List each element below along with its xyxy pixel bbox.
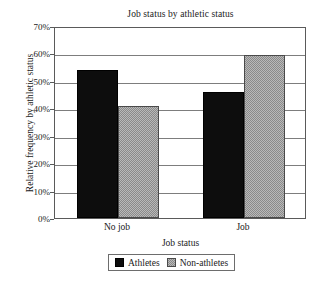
legend-item[interactable]: Athletes <box>115 258 160 268</box>
y-tick-label: 40% <box>0 105 50 114</box>
y-tick-label: 50% <box>0 77 50 86</box>
legend-item[interactable]: Non-athletes <box>167 258 229 268</box>
bar-athletes-job <box>203 92 244 218</box>
y-tick-mark <box>50 219 54 220</box>
x-axis-label: Job status <box>54 238 307 248</box>
y-tick-label: 0% <box>0 215 50 224</box>
y-tick-label: 70% <box>0 23 50 32</box>
x-tick-label: Job <box>193 222 293 232</box>
x-axis-ticks: No jobJob <box>54 222 306 236</box>
bar-non-athletes-no-job <box>118 106 159 218</box>
x-tick-label: No job <box>67 222 167 232</box>
bar-non-athletes-job <box>244 55 285 218</box>
bar-athletes-no-job <box>77 70 118 218</box>
gray-swatch-icon <box>167 258 176 267</box>
y-tick-label: 60% <box>0 50 50 59</box>
plot-area <box>54 27 306 219</box>
chart-title: Job status by athletic status <box>54 9 307 19</box>
chart-figure: Job status by athletic status Relative f… <box>0 0 325 291</box>
y-tick-label: 30% <box>0 132 50 141</box>
chart-legend: AthletesNon-athletes <box>108 254 235 271</box>
y-tick-label: 10% <box>0 187 50 196</box>
legend-label: Non-athletes <box>180 258 229 268</box>
black-swatch-icon <box>115 258 124 267</box>
y-tick-label: 20% <box>0 160 50 169</box>
legend-label: Athletes <box>128 258 160 268</box>
